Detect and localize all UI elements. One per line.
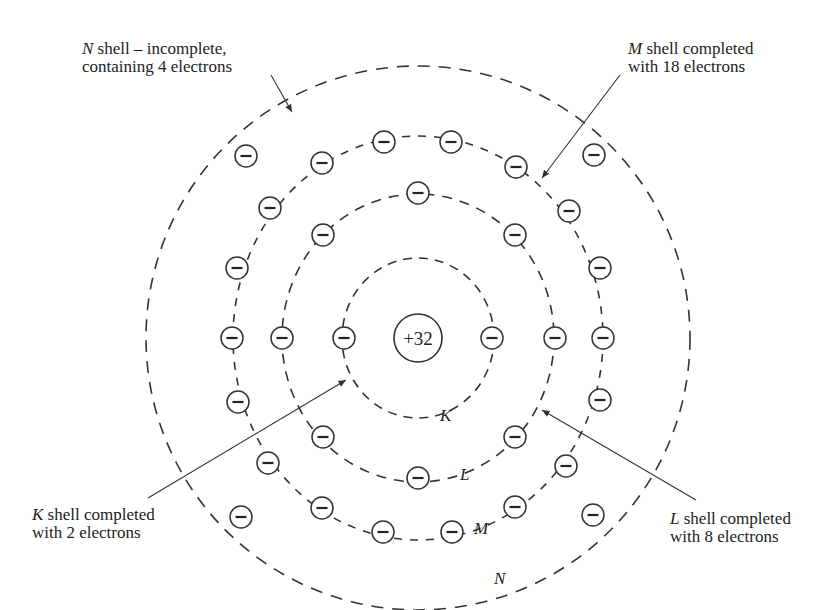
m-shell-annotation: M shell completed with 18 electrons: [628, 40, 754, 76]
electron-m-shell: −: [441, 521, 463, 543]
electron-m-shell: −: [311, 497, 333, 519]
electron-m-shell: −: [311, 152, 333, 174]
k-shell-letter: K: [439, 406, 453, 425]
electron-m-shell: −: [504, 496, 526, 518]
electron-m-shell: −: [589, 389, 611, 411]
electron-m-shell: −: [226, 257, 248, 279]
l-shell-letter: L: [459, 465, 469, 484]
m-shell-leader: [542, 75, 620, 178]
electron-l-shell: −: [407, 467, 429, 489]
electron-n-shell: −: [583, 144, 605, 166]
electron-l-shell: −: [504, 224, 526, 246]
electron-m-shell: −: [373, 131, 395, 153]
nucleus: +32: [394, 314, 442, 362]
k-shell-annotation: K shell completed with 2 electrons: [32, 506, 155, 542]
electron-l-shell: −: [312, 426, 334, 448]
electron-k-shell: −: [481, 327, 503, 349]
l-shell-annotation: L shell completed with 8 electrons: [670, 510, 791, 546]
n-shell-annotation: N shell – incomplete, containing 4 elect…: [82, 40, 232, 76]
electron-m-shell: −: [592, 327, 614, 349]
n-shell-letter: N: [493, 569, 507, 588]
electron-m-shell: −: [558, 200, 580, 222]
electron-m-shell: −: [440, 131, 462, 153]
electron-m-shell: −: [505, 156, 527, 178]
electron-m-shell: −: [257, 452, 279, 474]
electron-m-shell: −: [221, 327, 243, 349]
electron-l-shell: −: [544, 327, 566, 349]
n-shell-leader: [271, 75, 292, 112]
electron-m-shell: −: [589, 257, 611, 279]
electron-l-shell: −: [271, 327, 293, 349]
electron-k-shell: −: [333, 327, 355, 349]
electron-m-shell: −: [227, 391, 249, 413]
svg-text:+32: +32: [403, 328, 433, 349]
electron-m-shell: −: [259, 197, 281, 219]
electron-l-shell: −: [312, 224, 334, 246]
electron-m-shell: −: [555, 455, 577, 477]
electron-n-shell: −: [235, 145, 257, 167]
electron-n-shell: −: [230, 506, 252, 528]
electron-l-shell: −: [407, 182, 429, 204]
electron-n-shell: −: [582, 504, 604, 526]
electron-m-shell: −: [372, 521, 394, 543]
electron-l-shell: −: [504, 426, 526, 448]
m-shell-letter: M: [473, 519, 489, 538]
